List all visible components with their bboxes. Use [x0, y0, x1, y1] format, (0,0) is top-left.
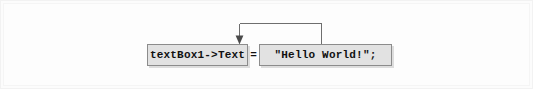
assignment-diagram: textBox1->Text = "Hello World!";	[1, 1, 533, 89]
assigned-value-box: "Hello World!";	[259, 44, 392, 66]
figure-container: textBox1->Text = "Hello World!";	[0, 0, 533, 89]
assignment-target-box: textBox1->Text	[147, 44, 248, 66]
assigned-value-text: "Hello World!";	[274, 49, 376, 61]
assignment-operator: =	[248, 44, 259, 66]
assignment-target-text: textBox1->Text	[150, 49, 245, 61]
